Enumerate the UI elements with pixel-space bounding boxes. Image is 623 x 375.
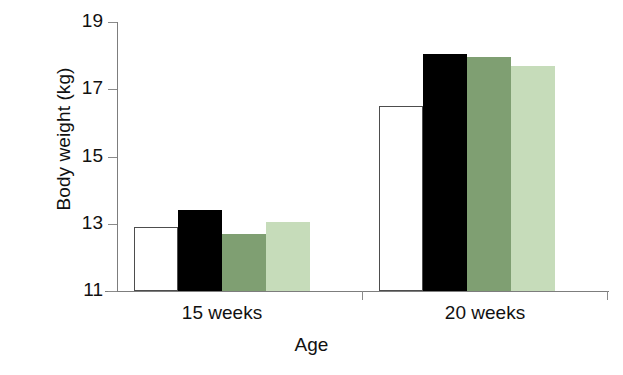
x-tick-separator — [362, 291, 363, 300]
y-tick-label-15: 15 — [82, 145, 103, 167]
bar-g1-s2[interactable] — [178, 210, 222, 291]
y-axis-title: Body weight (kg) — [53, 9, 75, 269]
bar-g2-s1[interactable] — [379, 106, 423, 291]
y-tick-label-19: 19 — [82, 10, 103, 32]
x-axis-line — [105, 291, 609, 292]
y-tick-label-13: 13 — [82, 212, 103, 234]
x-tick-label-15-weeks: 15 weeks — [132, 302, 312, 324]
x-tick-label-20-weeks: 20 weeks — [395, 302, 575, 324]
y-tick-label-11: 11 — [83, 279, 103, 301]
bar-g2-s3[interactable] — [467, 57, 511, 291]
x-axis-title: Age — [0, 334, 623, 356]
x-tick-end — [607, 291, 608, 300]
bar-g2-s4[interactable] — [511, 66, 555, 291]
bar-chart-figure: Body weight (kg) 11 13 15 17 19 15 wee — [0, 0, 623, 375]
bar-g1-s3[interactable] — [222, 234, 266, 291]
plot-area — [117, 22, 607, 291]
bar-g1-s4[interactable] — [266, 222, 310, 291]
y-tick-label-17: 17 — [82, 77, 103, 99]
bar-g1-s1[interactable] — [134, 227, 178, 291]
bar-g2-s2[interactable] — [423, 54, 467, 291]
